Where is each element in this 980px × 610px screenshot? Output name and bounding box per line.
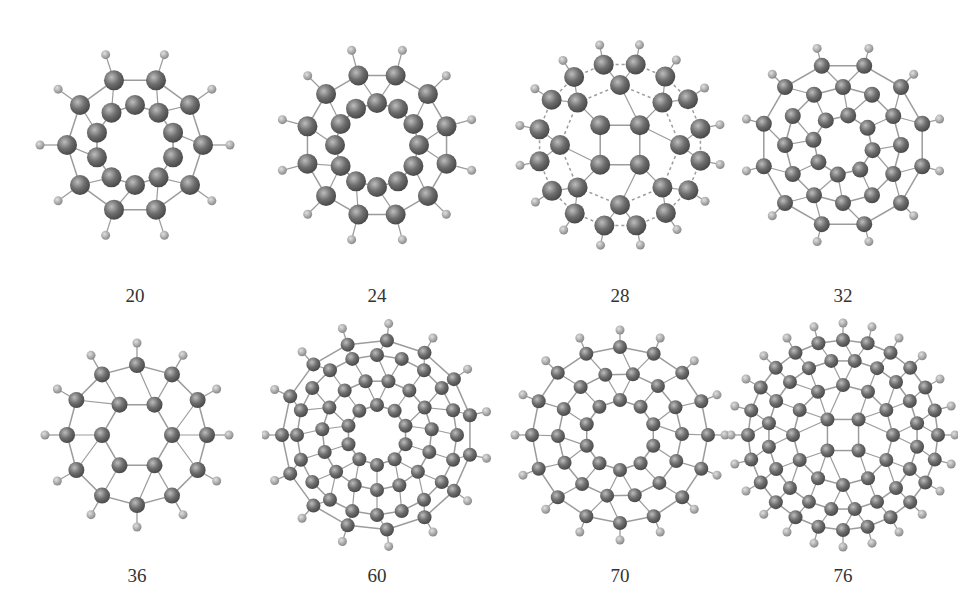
hydrogen-atom xyxy=(635,40,644,49)
structure-label: 60 xyxy=(262,565,492,587)
hydrogen-atom xyxy=(442,71,451,80)
carbon-atom xyxy=(914,116,930,132)
carbon-atom xyxy=(297,154,317,174)
hydrogen-atom xyxy=(384,542,393,551)
carbon-atom xyxy=(811,520,825,534)
carbon-atom xyxy=(283,467,297,481)
hydrogen-atom xyxy=(516,161,525,170)
carbon-atom xyxy=(316,186,336,206)
carbon-atom xyxy=(903,361,917,375)
carbon-atom xyxy=(87,123,107,143)
hydrogen-atom xyxy=(384,319,393,328)
hydrogen-atom xyxy=(867,322,876,331)
carbon-atom xyxy=(652,476,666,490)
carbon-atom xyxy=(879,403,893,417)
carbon-atom xyxy=(870,495,884,509)
carbon-atom xyxy=(769,361,783,375)
hydrogen-atom xyxy=(212,477,221,486)
carbon-atom xyxy=(762,416,776,430)
carbon-atom xyxy=(348,478,362,492)
carbon-atom xyxy=(613,393,627,407)
carbon-atom xyxy=(634,456,648,470)
carbon-atom xyxy=(580,417,594,431)
carbon-atom xyxy=(793,403,807,417)
carbon-atom xyxy=(579,347,593,361)
carbon-atom xyxy=(341,518,355,532)
hydrogen-atom xyxy=(338,537,347,546)
hydrogen-atom xyxy=(226,141,235,150)
carbon-atom xyxy=(129,357,145,373)
hydrogen-atom xyxy=(716,160,725,169)
carbon-atom xyxy=(568,93,588,113)
hydrogen-atom xyxy=(742,166,751,175)
carbon-atom xyxy=(820,444,834,458)
molecule-c70 xyxy=(505,310,735,560)
hydrogen-atom xyxy=(298,514,307,523)
carbon-atom xyxy=(646,417,660,431)
carbon-atom xyxy=(530,151,550,171)
carbon-atom xyxy=(626,215,646,235)
carbon-atom xyxy=(786,428,800,442)
carbon-atom xyxy=(914,158,930,174)
hydrogen-atom xyxy=(347,235,356,244)
carbon-atom xyxy=(852,444,866,458)
carbon-atom xyxy=(651,379,665,393)
carbon-atom xyxy=(630,115,650,135)
carbon-atom xyxy=(395,504,409,518)
hydrogen-atom xyxy=(935,487,944,496)
carbon-atom xyxy=(530,119,550,139)
hydrogen-atom xyxy=(101,50,110,59)
carbon-atom xyxy=(852,162,868,178)
carbon-atom xyxy=(806,87,822,103)
carbon-atom xyxy=(532,462,546,476)
carbon-atom xyxy=(322,401,336,415)
carbon-atom xyxy=(884,510,898,524)
structure-panel-32: 32 xyxy=(728,20,958,300)
carbon-atom xyxy=(675,366,689,380)
hydrogen-atom xyxy=(53,385,62,394)
carbon-atom xyxy=(403,114,423,134)
hydrogen-atom xyxy=(559,226,568,235)
hydrogen-atom xyxy=(839,319,848,328)
carbon-atom xyxy=(675,427,689,441)
carbon-atom xyxy=(388,404,402,418)
carbon-atom xyxy=(57,135,77,155)
carbon-atom xyxy=(754,476,768,490)
carbon-atom xyxy=(164,366,180,382)
carbon-atom xyxy=(163,123,183,143)
carbon-atom xyxy=(101,167,121,187)
carbon-atom xyxy=(149,103,169,123)
carbon-atom xyxy=(889,481,903,495)
molecule-c36 xyxy=(22,310,252,560)
carbon-atom xyxy=(630,155,650,175)
carbon-atom xyxy=(87,147,107,167)
carbon-atom xyxy=(146,200,166,220)
carbon-atom xyxy=(626,367,640,381)
carbon-atom xyxy=(341,338,355,352)
carbon-atom xyxy=(341,419,355,433)
carbon-atom xyxy=(879,453,893,467)
structure-label: 28 xyxy=(505,285,735,307)
carbon-atom xyxy=(670,135,690,155)
hydrogen-atom xyxy=(730,459,739,468)
carbon-atom xyxy=(928,453,942,467)
carbon-atom xyxy=(610,195,630,215)
structure-label: 32 xyxy=(728,285,958,307)
hydrogen-atom xyxy=(672,55,681,64)
hydrogen-atom xyxy=(133,339,142,348)
hydrogen-atom xyxy=(270,476,279,485)
hydrogen-atom xyxy=(429,334,438,343)
structure-label: 70 xyxy=(505,565,735,587)
carbon-atom xyxy=(594,55,614,75)
carbon-atom xyxy=(793,453,807,467)
hydrogen-atom xyxy=(558,56,567,65)
carbon-atom xyxy=(647,347,661,361)
carbon-atom xyxy=(112,457,128,473)
carbon-atom xyxy=(104,200,124,220)
carbon-atom xyxy=(386,65,406,85)
carbon-atom xyxy=(893,195,909,211)
carbon-atom xyxy=(579,509,593,523)
hydrogen-atom xyxy=(935,115,944,124)
hydrogen-atom xyxy=(133,523,142,532)
carbon-atom xyxy=(652,177,672,197)
